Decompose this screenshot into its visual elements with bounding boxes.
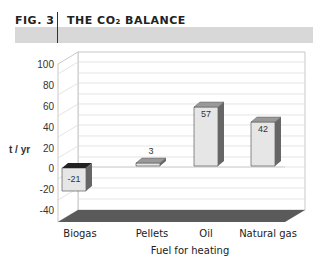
x-category-label: Pellets (124, 228, 180, 239)
y-tick: -40 (24, 205, 54, 216)
x-category-label: Oil (178, 228, 234, 239)
figure-header-divider (57, 12, 58, 43)
y-tick: 60 (24, 101, 54, 112)
bar-value-label: -21 (62, 174, 86, 184)
y-axis-label: t / yr (9, 144, 30, 155)
y-tick: 40 (24, 122, 54, 133)
x-category-label: Natural gas (228, 228, 308, 239)
bar-value-label: 57 (194, 109, 218, 119)
bar-value-label: 3 (139, 146, 163, 156)
figure-number: FIG. 3 (15, 14, 54, 27)
figure-title: THE CO₂ BALANCE (67, 14, 186, 27)
y-tick: -20 (24, 184, 54, 195)
y-tick: 100 (24, 59, 54, 70)
y-tick: 80 (24, 80, 54, 91)
bar-chart: 100 80 60 40 20 0 -20 -40 t / yr -21 3 5… (0, 50, 325, 268)
bar-value-label: 42 (251, 124, 275, 134)
figure-header-band (15, 27, 313, 43)
x-category-label: Biogas (52, 228, 108, 239)
x-axis-title: Fuel for heating (130, 245, 250, 256)
y-tick: 0 (24, 163, 54, 174)
